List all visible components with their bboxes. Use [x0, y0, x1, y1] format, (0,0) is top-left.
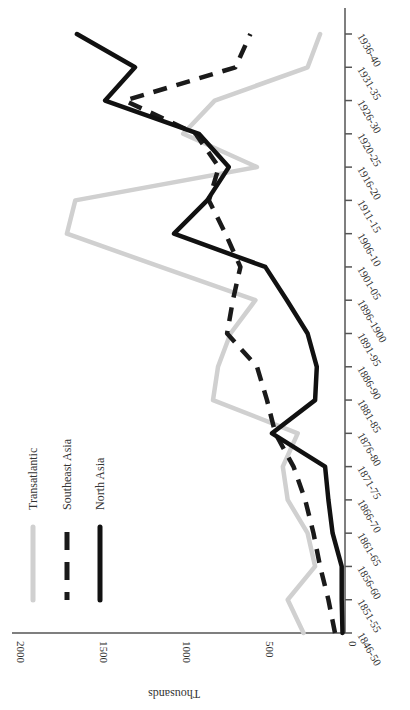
legend-label: Southeast Asia: [60, 438, 74, 510]
series-layer: [67, 34, 343, 633]
category-tick-label: 1846-50: [355, 630, 384, 668]
category-tick-label: 1920-25: [355, 131, 384, 169]
series-line-north-asia: [77, 34, 343, 633]
value-tick-label: 500: [264, 641, 276, 658]
category-tick-label: 1886-90: [355, 364, 384, 402]
legend-label: Transatlantic: [26, 448, 40, 510]
category-tick-label: 1911-15: [355, 197, 384, 235]
category-tick-label: 1871-75: [355, 464, 384, 502]
series-line-southeast-asia: [125, 34, 335, 633]
category-tick-label: 1881-85: [355, 397, 384, 435]
series-line-transatlantic: [67, 34, 320, 633]
category-tick-label: 1906-10: [355, 231, 384, 269]
value-tick-label: 2000: [15, 641, 27, 664]
chart: 1846-501851-551856-601861-651866-701871-…: [0, 0, 410, 710]
value-axis-title: Thousands: [148, 687, 200, 701]
category-tick-label: 1916-20: [355, 164, 384, 202]
value-tick-label: 0: [347, 641, 359, 647]
category-tick-label: 1866-70: [355, 497, 384, 535]
legend: TransatlanticSoutheast AsiaNorth Asia: [26, 438, 107, 600]
value-tick-label: 1500: [98, 641, 110, 664]
category-tick-label: 1901-05: [355, 264, 384, 302]
category-tick-label: 1936-40: [355, 31, 384, 69]
category-tick-label: 1931-35: [355, 64, 384, 102]
category-tick-label: 1876-80: [355, 430, 384, 468]
category-tick-label: 1861-65: [355, 530, 384, 568]
category-tick-label: 1926-30: [355, 98, 384, 136]
category-tick-label: 1856-60: [355, 563, 384, 601]
legend-label: North Asia: [93, 457, 107, 510]
category-tick-label: 1851-55: [355, 597, 384, 635]
value-tick-label: 1000: [181, 641, 193, 664]
chart-canvas: 1846-501851-551856-601861-651866-701871-…: [0, 0, 410, 710]
